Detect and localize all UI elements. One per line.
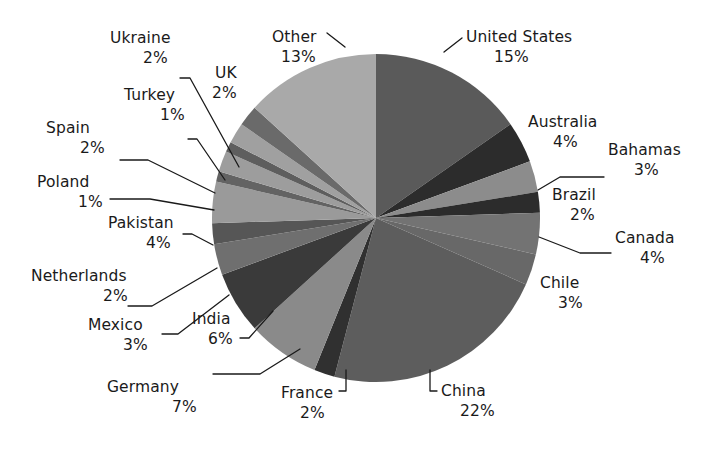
slice-label-name-canada: Canada [615,229,675,247]
slice-label-name-pakistan: Pakistan [108,214,174,232]
slice-label-name-france: France [281,384,333,402]
slice-label-name-uk: UK [215,64,237,82]
slice-label-pct-australia: 4% [553,133,578,151]
slice-label-name-bahamas: Bahamas [608,141,681,159]
slice-label-name-china: China [441,382,486,400]
slice-label-name-ukraine: Ukraine [110,29,171,47]
slice-label-pct-netherlands: 2% [103,287,128,305]
pie-slices-group [212,54,540,382]
slice-label-name-poland: Poland [37,173,89,191]
slice-label-pct-india: 6% [208,330,233,348]
slice-label-pct-bahamas: 3% [634,161,659,179]
slice-label-name-australia: Australia [528,113,597,131]
slice-label-name-mexico: Mexico [88,316,143,334]
slice-label-name-united-states: United States [466,28,572,46]
slice-label-name-other: Other [272,28,317,46]
slice-label-name-brazil: Brazil [552,186,596,204]
slice-label-pct-spain: 2% [80,139,105,157]
slice-label-pct-chile: 3% [558,294,583,312]
slice-label-pct-poland: 1% [78,193,103,211]
slice-label-pct-pakistan: 4% [146,234,171,252]
slice-label-pct-united-states: 15% [494,48,529,66]
slice-label-pct-france: 2% [300,404,325,422]
slice-label-name-chile: Chile [540,274,579,292]
slice-label-pct-germany: 7% [172,398,197,416]
slice-label-pct-other: 13% [281,48,316,66]
slice-label-pct-brazil: 2% [570,206,595,224]
slice-label-name-netherlands: Netherlands [31,267,127,285]
pie-chart-figure: United States15%Australia4%Bahamas3%Braz… [0,0,720,449]
slice-label-name-turkey: Turkey [123,86,175,104]
slice-label-pct-uk: 2% [212,84,237,102]
slice-label-pct-turkey: 1% [160,106,185,124]
slice-label-pct-canada: 4% [640,249,665,267]
slice-label-pct-mexico: 3% [123,336,148,354]
pie-chart-canvas: United States15%Australia4%Bahamas3%Braz… [0,0,720,449]
slice-label-name-spain: Spain [46,119,90,137]
slice-label-pct-china: 22% [460,402,495,420]
slice-label-name-germany: Germany [107,378,179,396]
slice-label-pct-ukraine: 2% [143,49,168,67]
slice-label-name-india: India [192,310,231,328]
